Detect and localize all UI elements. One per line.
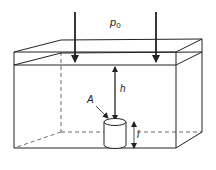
length-label: l bbox=[137, 129, 140, 140]
depth-label: h bbox=[120, 83, 126, 94]
area-pointer bbox=[96, 106, 108, 118]
water-surface-right bbox=[176, 52, 202, 65]
submerged-cylinder bbox=[104, 119, 126, 149]
pressure-label: p0 bbox=[109, 16, 121, 30]
water-surface-left bbox=[14, 53, 61, 65]
area-label: A bbox=[86, 94, 94, 105]
tank-diagram: p0 h A l bbox=[0, 0, 216, 170]
